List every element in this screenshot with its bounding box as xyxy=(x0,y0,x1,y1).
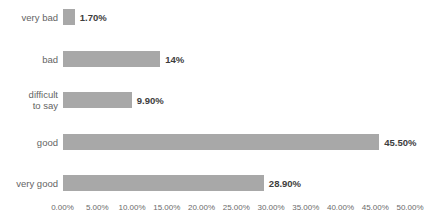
category-label: bad xyxy=(0,53,58,64)
bar-row: very good28.90% xyxy=(0,175,427,191)
category-label: very bad xyxy=(0,12,58,23)
x-axis-tick-label: 5.00% xyxy=(86,203,109,212)
category-label: difficult to say xyxy=(0,89,58,111)
bar-row: good45.50% xyxy=(0,134,427,150)
value-label: 45.50% xyxy=(384,136,416,147)
x-axis-tick-label: 30.00% xyxy=(257,203,284,212)
x-axis-tick-label: 20.00% xyxy=(188,203,215,212)
category-label: good xyxy=(0,136,58,147)
value-label: 28.90% xyxy=(269,178,301,189)
bar-row: bad14% xyxy=(0,51,427,67)
category-label: very good xyxy=(0,178,58,189)
x-axis-tick-label: 45.00% xyxy=(362,203,389,212)
x-axis-tick-label: 0.00% xyxy=(51,203,74,212)
bar xyxy=(63,9,75,25)
value-label: 14% xyxy=(165,53,184,64)
x-axis-tick-label: 25.00% xyxy=(223,203,250,212)
x-axis-tick-label: 40.00% xyxy=(327,203,354,212)
bar-row: very bad1.70% xyxy=(0,9,427,25)
x-axis-tick-label: 15.00% xyxy=(153,203,180,212)
bar-row: difficult to say9.90% xyxy=(0,92,427,108)
bar xyxy=(63,134,379,150)
x-axis-tick-label: 50.00% xyxy=(396,203,423,212)
bar xyxy=(63,51,160,67)
bar-chart: very bad1.70%bad14%difficult to say9.90%… xyxy=(0,0,427,222)
x-axis-tick-label: 10.00% xyxy=(118,203,145,212)
value-label: 1.70% xyxy=(80,12,107,23)
bar xyxy=(63,92,132,108)
value-label: 9.90% xyxy=(137,95,164,106)
bar xyxy=(63,175,264,191)
x-axis-tick-label: 35.00% xyxy=(292,203,319,212)
